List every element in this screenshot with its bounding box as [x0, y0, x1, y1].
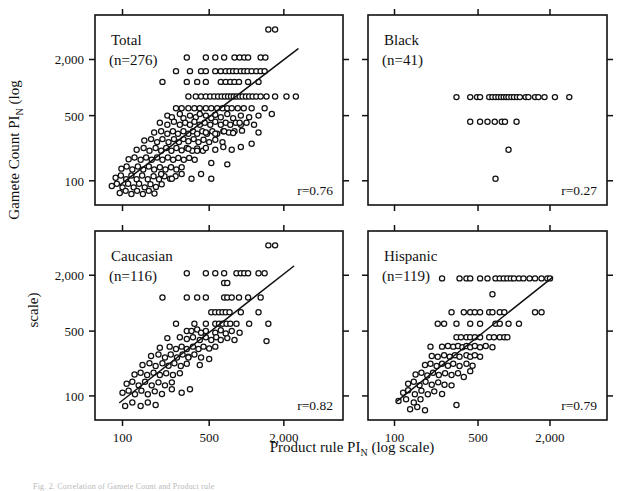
data-point — [455, 371, 460, 376]
data-point — [139, 388, 144, 393]
data-point — [403, 397, 408, 402]
data-point — [266, 243, 271, 248]
data-point — [246, 271, 251, 276]
data-point — [208, 122, 213, 127]
panel-n-label: (n=119) — [382, 268, 430, 285]
panel-title: Caucasian — [111, 248, 173, 264]
data-point — [232, 337, 237, 342]
data-point — [174, 167, 179, 172]
data-point — [256, 130, 261, 135]
data-point — [505, 335, 510, 340]
data-point — [169, 380, 174, 385]
data-point — [247, 115, 252, 120]
panel-total: 1005002,000Total(n=276)r=0.76 — [55, 9, 349, 211]
data-point — [157, 120, 162, 125]
data-point — [468, 369, 473, 374]
data-point — [406, 381, 411, 386]
data-point — [165, 131, 170, 136]
data-point — [196, 346, 201, 351]
data-point — [179, 148, 184, 153]
data-point — [293, 94, 298, 99]
data-point — [189, 176, 194, 181]
data-point — [213, 271, 218, 276]
data-point — [203, 130, 208, 135]
data-point — [203, 79, 208, 84]
data-point — [192, 321, 197, 326]
data-point — [186, 106, 191, 111]
data-point — [457, 276, 462, 281]
data-point — [187, 387, 192, 392]
data-point — [129, 191, 134, 196]
data-point — [179, 171, 184, 176]
data-point — [258, 94, 263, 99]
data-point — [124, 381, 129, 386]
data-point — [209, 106, 214, 111]
correlation-label: r=0.27 — [561, 183, 597, 198]
data-point — [113, 175, 118, 180]
data-point — [145, 372, 150, 377]
data-point — [173, 106, 178, 111]
data-point — [193, 94, 198, 99]
data-point — [228, 321, 233, 326]
data-point — [184, 79, 189, 84]
data-point — [264, 94, 269, 99]
data-point — [262, 271, 267, 276]
data-point — [412, 392, 417, 397]
data-point — [419, 370, 424, 375]
data-point — [220, 140, 225, 145]
data-point — [445, 343, 450, 348]
data-point — [123, 188, 128, 193]
data-point — [123, 403, 128, 408]
data-point — [184, 55, 189, 60]
data-point — [238, 144, 243, 149]
data-point — [442, 382, 447, 387]
data-point — [167, 344, 172, 349]
data-point — [284, 94, 289, 99]
faint-caption: Fig. 2. Correlation of Gamete Count and … — [33, 482, 214, 491]
data-point — [464, 361, 469, 366]
data-point — [439, 344, 444, 349]
data-point — [126, 157, 131, 162]
data-point — [186, 94, 191, 99]
data-point — [138, 370, 143, 375]
panel-n-label: (n=116) — [109, 268, 157, 285]
data-point — [124, 164, 129, 169]
x-tick-label: 2,000 — [535, 430, 564, 445]
data-point — [201, 344, 206, 349]
data-point — [229, 147, 234, 152]
data-point — [506, 147, 511, 152]
data-point — [144, 155, 149, 160]
y-tick-label: 100 — [65, 389, 85, 404]
data-point — [195, 131, 200, 136]
data-point — [490, 310, 495, 315]
data-point — [506, 321, 511, 326]
data-point — [262, 106, 267, 111]
data-point — [126, 181, 131, 186]
data-point — [411, 379, 416, 384]
data-point — [195, 148, 200, 153]
panel-title: Black — [384, 32, 419, 48]
data-point — [266, 321, 271, 326]
data-point — [148, 353, 153, 358]
data-point — [168, 165, 173, 170]
data-point — [429, 382, 434, 387]
data-point — [249, 106, 254, 111]
data-point — [153, 184, 158, 189]
data-point — [238, 113, 243, 118]
data-point — [207, 140, 212, 145]
panel-black: Black(n=41)r=0.27 — [362, 9, 613, 211]
data-point — [196, 140, 201, 145]
data-point — [184, 361, 189, 366]
data-point — [132, 155, 137, 160]
data-point — [468, 321, 473, 326]
data-point — [477, 119, 482, 124]
data-point — [451, 361, 456, 366]
data-point — [422, 408, 427, 413]
data-point — [153, 402, 158, 407]
correlation-label: r=0.82 — [297, 398, 333, 413]
data-point — [539, 276, 544, 281]
data-point — [244, 120, 249, 125]
data-point — [490, 345, 495, 350]
data-point — [225, 162, 230, 167]
data-point — [140, 191, 145, 196]
